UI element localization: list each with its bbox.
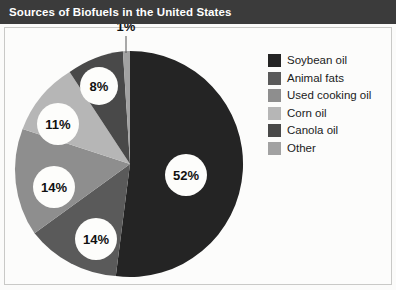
legend-label: Canola oil [287,124,338,137]
legend-swatch-icon [268,89,281,102]
chart-legend: Soybean oil Animal fats Used cooking oil… [268,52,392,157]
slice-label-used-cooking-oil: 14% [41,180,67,195]
legend-swatch-icon [268,54,281,67]
slice-label-bubble-animal-fats: 14% [75,218,117,260]
slice-label-other: 1% [117,24,136,34]
slice-label-canola-oil: 8% [90,79,109,94]
slice-label-bubble-soybean-oil: 52% [165,154,207,196]
legend-item-soybean-oil[interactable]: Soybean oil [268,52,392,70]
legend-swatch-icon [268,142,281,155]
legend-item-corn-oil[interactable]: Corn oil [268,105,392,123]
page-title: Sources of Biofuels in the United States [0,6,232,18]
chart-title-bar: Sources of Biofuels in the United States [0,0,396,24]
slice-label-bubble-canola-oil: 8% [80,67,118,105]
legend-swatch-icon [268,72,281,85]
legend-item-used-cooking-oil[interactable]: Used cooking oil [268,87,392,105]
legend-item-other[interactable]: Other [268,140,392,158]
slice-label-soybean-oil: 52% [173,168,199,183]
legend-label: Soybean oil [287,54,347,67]
legend-swatch-icon [268,124,281,137]
slice-label-bubble-corn-oil: 11% [37,103,79,145]
legend-label: Animal fats [287,72,344,85]
legend-label: Other [287,142,316,155]
slice-label-bubble-used-cooking-oil: 14% [33,166,75,208]
legend-label: Used cooking oil [287,89,371,102]
slice-label-corn-oil: 11% [45,117,71,132]
legend-label: Corn oil [287,107,327,120]
legend-item-canola-oil[interactable]: Canola oil [268,122,392,140]
biofuels-pie-chart-card: Sources of Biofuels in the United States… [0,0,396,290]
legend-swatch-icon [268,107,281,120]
legend-item-animal-fats[interactable]: Animal fats [268,70,392,88]
slice-label-animal-fats: 14% [83,232,109,247]
